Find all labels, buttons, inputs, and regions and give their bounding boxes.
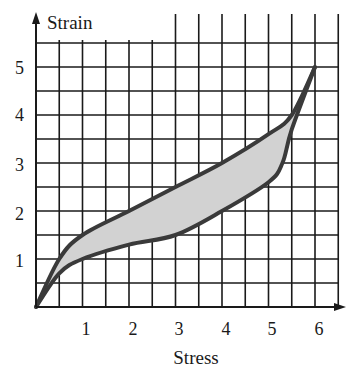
axes [32,12,346,311]
y-axis-arrow-icon [32,12,40,24]
x-tick-labels: 1 2 3 4 5 6 [82,319,324,339]
y-tick-2: 2 [15,204,24,224]
x-tick-5: 5 [268,319,277,339]
y-tick-4: 4 [15,105,24,125]
grid-lines [36,14,338,307]
chart-canvas: Strain 1 2 3 4 5 1 2 3 4 5 6 Stress [0,0,352,381]
stress-strain-chart: Strain 1 2 3 4 5 1 2 3 4 5 6 Stress [0,0,352,381]
y-tick-labels: 1 2 3 4 5 [15,58,24,271]
y-axis-label: Strain [47,12,93,33]
y-tick-3: 3 [15,155,24,175]
x-tick-3: 3 [175,319,184,339]
x-tick-1: 1 [82,319,91,339]
y-tick-1: 1 [15,251,24,271]
y-tick-5: 5 [15,58,24,78]
x-axis-label: Stress [173,347,218,368]
x-tick-4: 4 [222,319,231,339]
x-axis-arrow-icon [334,303,346,311]
x-tick-6: 6 [315,319,324,339]
x-tick-2: 2 [129,319,138,339]
